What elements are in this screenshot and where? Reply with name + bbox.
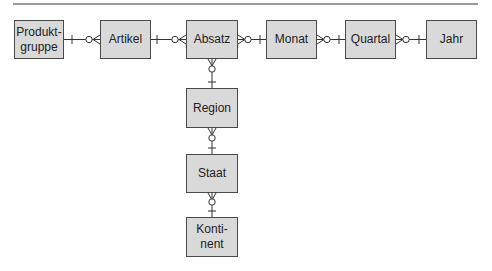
relationship-staat-kontinent [208,193,216,217]
relationship-region-staat [208,128,216,154]
entity-staat: Staat [186,154,238,193]
entity-artikel: Artikel [100,20,151,59]
entity-kontinent: Konti- nent [186,217,238,257]
entity-absatz: Absatz [186,20,238,59]
entity-jahr: Jahr [426,20,477,59]
er-diagram-connectors [0,0,492,271]
entity-region: Region [186,88,238,128]
entity-produktgruppe: Produkt- gruppe [14,20,64,59]
relationship-absatz-region [208,59,216,88]
relationship-produktgruppe-artikel [64,35,100,44]
relationship-monat-quartal [317,35,345,44]
relationship-artikel-absatz [151,35,186,44]
entity-quartal: Quartal [345,20,396,59]
entity-monat: Monat [266,20,317,59]
relationship-absatz-monat [238,35,266,44]
relationship-quartal-jahr [396,35,426,44]
